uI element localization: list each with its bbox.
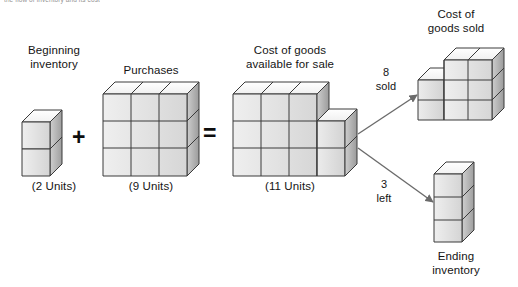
cost-of-goods-sold-title: Cost of goods sold xyxy=(400,8,512,35)
equals-operator: = xyxy=(203,122,216,145)
ending-inventory-title: Ending inventory xyxy=(400,250,512,277)
left-arrow-label: left xyxy=(366,192,402,206)
ending-inventory-block xyxy=(434,160,488,250)
cut-off-header-text: the flow of inventory and its cost xyxy=(4,0,100,3)
cost-of-goods-sold-block xyxy=(418,48,518,126)
beginning-inventory-block xyxy=(22,108,76,182)
purchases-units: (9 Units) xyxy=(96,180,206,194)
goods-available-title: Cost of goods available for sale xyxy=(225,44,355,71)
diagram-canvas: the flow of inventory and its cost Begin… xyxy=(0,0,518,287)
arrow-sold xyxy=(358,95,417,134)
sold-arrow-label: sold xyxy=(368,80,404,94)
left-arrow-count: 3 xyxy=(366,178,402,192)
beginning-inventory-title: Beginning inventory xyxy=(2,44,106,71)
beginning-inventory-units: (2 Units) xyxy=(2,180,106,194)
sold-arrow-count: 8 xyxy=(368,66,404,80)
goods-available-units: (11 Units) xyxy=(225,180,355,194)
purchases-title: Purchases xyxy=(96,64,206,78)
goods-available-block xyxy=(233,80,361,182)
purchases-block xyxy=(103,80,203,182)
